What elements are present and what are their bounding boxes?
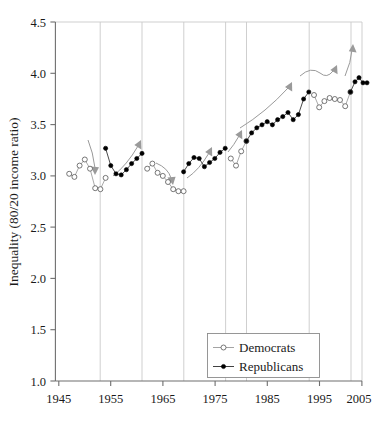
arrow-clinton-flat <box>300 70 333 76</box>
x-tick-label-1945: 1945 <box>46 392 71 406</box>
arrow-truman-down <box>88 140 95 168</box>
rep-point-1985 <box>265 120 269 124</box>
rep-point-1969 <box>182 170 186 174</box>
dem-point-1964 <box>155 170 160 175</box>
dem-markers <box>67 90 353 194</box>
chart-figure: Inequality (80/20 income ratio) 4.5 <box>0 0 373 433</box>
inequality-line-chart: Inequality (80/20 income ratio) 4.5 <box>0 0 373 433</box>
dem-point-1948 <box>72 174 77 179</box>
rep-point-1961 <box>140 151 144 155</box>
rep-point-1982 <box>250 131 254 135</box>
series-democrats <box>67 90 353 194</box>
series-republicans <box>104 76 370 177</box>
rep-point-1991 <box>296 113 300 117</box>
legend-marker-democrats-icon <box>221 345 226 350</box>
rep-point-1988 <box>281 115 285 119</box>
rep-point-1992 <box>302 97 306 101</box>
arrow-eisenhower-up-head <box>134 140 141 149</box>
x-tick-label-1985: 1985 <box>255 392 280 406</box>
rep-point-1959 <box>130 162 134 166</box>
dem-point-1951 <box>88 166 93 171</box>
x-tick-label-1965: 1965 <box>150 392 175 406</box>
rep-point-2005 <box>365 81 369 85</box>
arrow-carter-up <box>228 136 239 152</box>
rep-point-1970 <box>187 162 191 166</box>
rep-point-1957 <box>119 173 123 177</box>
rep-point-1984 <box>260 123 264 127</box>
rep-point-2003 <box>357 76 361 80</box>
rep-point-1990 <box>291 118 295 122</box>
dem-point-1998 <box>332 97 337 102</box>
rep-point-1974 <box>208 160 212 164</box>
rep-markers <box>104 76 370 177</box>
y-tick-label-2.0: 2.0 <box>30 272 46 286</box>
y-tick-label-4.0: 4.0 <box>30 67 46 81</box>
dem-point-1980 <box>239 149 244 154</box>
rep-line-1954-1961 <box>106 148 142 175</box>
rep-point-1972 <box>197 156 201 160</box>
dem-point-1999 <box>338 98 343 103</box>
dem-point-1979 <box>234 163 239 168</box>
dem-point-1966 <box>166 180 171 185</box>
dem-point-1949 <box>77 163 82 168</box>
dem-point-1950 <box>82 157 87 162</box>
dem-point-1947 <box>67 171 72 176</box>
x-tick-label-1955: 1955 <box>98 392 123 406</box>
rep-point-1981 <box>244 139 248 143</box>
dem-point-1965 <box>160 173 165 178</box>
dem-point-1952 <box>93 186 98 191</box>
arrow-reagan-bush-up <box>240 88 288 128</box>
rep-point-1975 <box>213 156 217 160</box>
dem-point-1962 <box>145 166 150 171</box>
arrow-carter-up-head <box>235 130 242 139</box>
rep-point-1993 <box>307 90 311 94</box>
y-tick-label-3.0: 3.0 <box>30 169 46 183</box>
legend[interactable]: Democrats Republicans <box>208 334 320 378</box>
rep-point-1987 <box>276 118 280 122</box>
dem-point-1967 <box>171 187 176 192</box>
y-axis-label: Inequality (80/20 income ratio) <box>6 117 21 286</box>
rep-point-1973 <box>202 165 206 169</box>
rep-point-1976 <box>218 150 222 154</box>
rep-point-1986 <box>270 123 274 127</box>
dem-point-1994 <box>312 93 317 98</box>
dem-point-1954 <box>103 175 108 180</box>
x-axis: 1945 1955 1965 1975 1985 1995 2005 <box>46 381 371 406</box>
rep-point-1989 <box>286 110 290 114</box>
dem-point-2000 <box>343 104 348 109</box>
dem-point-1978 <box>228 156 233 161</box>
x-tick-label-1975: 1975 <box>203 392 228 406</box>
dem-point-1969 <box>181 189 186 194</box>
arrow-nf-up-head <box>205 147 212 156</box>
rep-point-1983 <box>255 126 259 130</box>
legend-label-democrats: Democrats <box>239 340 295 355</box>
rep-point-1960 <box>135 156 139 160</box>
dem-point-1963 <box>150 161 155 166</box>
dem-line-1962-1969 <box>147 164 183 192</box>
rep-point-1971 <box>192 155 196 159</box>
y-tick-label-2.5: 2.5 <box>30 221 46 235</box>
y-axis: 4.5 4.0 3.5 3.0 2.5 2.0 1.5 1.0 <box>30 16 55 389</box>
legend-marker-republicans-icon <box>221 364 225 368</box>
rep-point-1977 <box>223 146 227 150</box>
y-tick-label-1.0: 1.0 <box>30 375 46 389</box>
x-tick-label-1995: 1995 <box>307 392 332 406</box>
trend-annotations <box>88 44 357 185</box>
dem-point-1953 <box>98 187 103 192</box>
dem-point-1997 <box>327 96 332 101</box>
rep-point-2002 <box>353 80 357 84</box>
y-tick-label-3.5: 3.5 <box>30 118 46 132</box>
rep-point-2001 <box>348 90 352 94</box>
legend-label-republicans: Republicans <box>239 359 303 374</box>
y-tick-label-4.5: 4.5 <box>30 16 46 30</box>
rep-point-1955 <box>109 164 113 168</box>
dem-point-1995 <box>317 105 322 110</box>
rep-point-1954 <box>104 146 108 150</box>
rep-point-1956 <box>114 172 118 176</box>
y-tick-label-1.5: 1.5 <box>30 323 46 337</box>
rep-point-1958 <box>124 168 128 172</box>
x-tick-label-2005: 2005 <box>347 392 372 406</box>
arrow-bush-up-head <box>349 44 357 53</box>
gridlines <box>55 22 362 381</box>
dem-point-1968 <box>176 189 181 194</box>
